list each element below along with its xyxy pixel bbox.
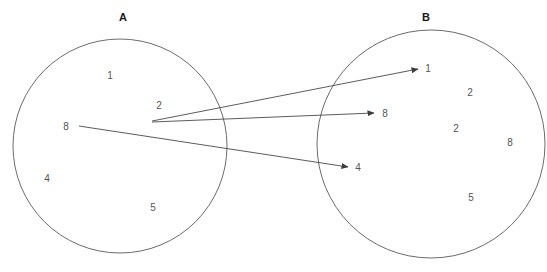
- set-a-element: 1: [107, 70, 113, 81]
- arrow-8-to-4: [79, 126, 348, 167]
- mapping-arrow-group: [79, 69, 418, 167]
- set-b-element: 8: [382, 108, 388, 119]
- arrow-2-to-1: [152, 69, 418, 121]
- set-b-element: 8: [507, 137, 513, 148]
- set-b-element: 4: [355, 162, 361, 173]
- set-b-element: 2: [467, 87, 473, 98]
- venn-diagram-canvas: AB 128451282845: [0, 0, 547, 272]
- set-circle-group: [13, 30, 545, 258]
- set-a-element: 5: [150, 202, 156, 213]
- set-title-b: B: [422, 11, 430, 23]
- set-circle-a: [13, 39, 227, 253]
- set-title-a: A: [119, 11, 127, 23]
- set-a-element: 2: [156, 100, 162, 111]
- set-b-element: 5: [468, 192, 474, 203]
- set-a-element: 8: [63, 121, 69, 132]
- set-b-element: 1: [425, 63, 431, 74]
- set-a-element: 4: [44, 173, 50, 184]
- diagram-vector-layer: [0, 0, 547, 272]
- set-b-element: 2: [453, 123, 459, 134]
